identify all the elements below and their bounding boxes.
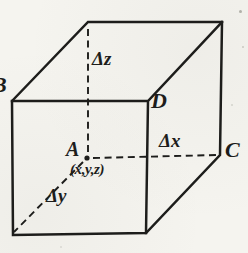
- paper-speck: [231, 104, 233, 106]
- delta-x-label: Δx: [159, 131, 180, 150]
- paper-speck: [242, 46, 244, 48]
- box-front-and-top-edges: [12, 22, 222, 233]
- paper-speck: [60, 246, 62, 248]
- vertex-d-label: D: [151, 90, 167, 112]
- point-a-dot: [84, 155, 89, 160]
- box-diagram: B A D C (x,y,z) Δz Δx Δy: [0, 0, 248, 253]
- vertex-c-label: C: [225, 139, 240, 161]
- vertex-a-label: A: [66, 139, 79, 159]
- hidden-edge-delta-x: [93, 155, 217, 158]
- point-coords-label: (x,y,z): [70, 162, 104, 177]
- paper-speck: [239, 10, 242, 13]
- delta-y-label: Δy: [46, 186, 66, 205]
- vertex-b-label: B: [0, 74, 7, 96]
- box-edges-svg: [0, 0, 248, 253]
- delta-z-label: Δz: [92, 49, 111, 68]
